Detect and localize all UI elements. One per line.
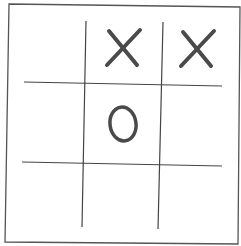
cell-0-0[interactable]	[10, 10, 84, 83]
cell-2-0[interactable]	[8, 164, 83, 240]
cell-1-1[interactable]	[85, 85, 160, 162]
cell-2-2[interactable]	[160, 166, 236, 241]
cell-1-2[interactable]	[162, 86, 236, 163]
cell-2-1[interactable]	[84, 165, 159, 241]
game-canvas	[0, 0, 241, 246]
cell-1-0[interactable]	[10, 85, 84, 162]
